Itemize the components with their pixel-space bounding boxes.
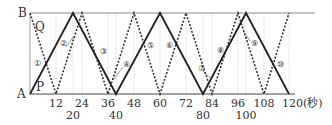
svg-text:⑩: ⑩ xyxy=(277,60,284,69)
svg-text:108: 108 xyxy=(254,97,275,110)
unit-label: 120(秒) xyxy=(282,96,323,110)
svg-text:⑨: ⑨ xyxy=(251,39,258,48)
svg-text:④: ④ xyxy=(123,60,130,69)
svg-text:20: 20 xyxy=(66,109,80,122)
label-b: B xyxy=(18,6,27,20)
svg-text:⑥: ⑥ xyxy=(166,41,173,50)
svg-text:⑧: ⑧ xyxy=(217,46,224,55)
svg-text:⑤: ⑤ xyxy=(147,41,154,50)
svg-text:③: ③ xyxy=(100,47,107,56)
label-a: A xyxy=(16,87,26,101)
svg-text:100: 100 xyxy=(236,109,257,122)
svg-text:12: 12 xyxy=(49,97,63,110)
svg-text:40: 40 xyxy=(109,109,123,122)
diagram: B A Q P 12 24 36 48 60 72 84 96 108 20 4… xyxy=(0,0,332,125)
svg-text:48: 48 xyxy=(127,97,141,110)
svg-text:80: 80 xyxy=(196,109,210,122)
series-q xyxy=(30,13,289,94)
svg-text:①: ① xyxy=(34,59,41,68)
label-p: P xyxy=(36,80,44,94)
svg-text:72: 72 xyxy=(179,97,193,110)
ticks-lower: 20 40 80 100 xyxy=(66,109,257,122)
svg-text:②: ② xyxy=(60,39,67,48)
svg-text:⑦: ⑦ xyxy=(198,64,205,73)
svg-text:60: 60 xyxy=(153,97,167,110)
label-q: Q xyxy=(35,20,45,34)
